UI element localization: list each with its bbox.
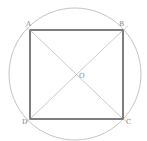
label-a: A	[25, 20, 32, 28]
geometry-diagram: A B C D O	[0, 0, 147, 141]
label-c: C	[126, 118, 131, 126]
label-b: B	[119, 20, 124, 28]
label-d: D	[22, 118, 28, 126]
label-o: O	[79, 72, 85, 80]
